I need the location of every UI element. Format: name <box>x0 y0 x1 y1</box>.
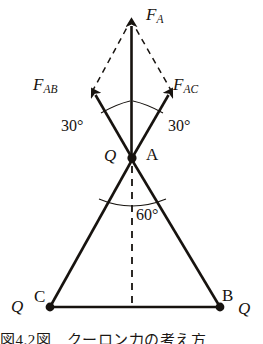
triangle-side-AB <box>132 160 220 307</box>
triangle-side-AC <box>50 160 132 307</box>
angle-arc-30-left <box>101 101 130 113</box>
label-force-FAB-symbol: F <box>33 75 43 94</box>
charge-point-A <box>127 153 136 162</box>
label-force-FAC-symbol: F <box>173 75 183 94</box>
label-angle-60-apex: 60° <box>136 207 158 223</box>
label-charge-Q-at-C: Q <box>11 298 23 315</box>
label-charge-Q-at-B: Q <box>238 300 250 317</box>
label-force-FA: FA <box>146 6 164 26</box>
parallelogram-construction-line-left <box>92 22 130 92</box>
charge-point-C <box>46 303 55 312</box>
label-vertex-C: C <box>34 288 45 305</box>
figure-caption: 図4.2図 クーロン力の考え方 <box>0 333 263 344</box>
label-force-FAB-subscript: AB <box>43 83 57 95</box>
coulomb-force-figure: FA FAB FAC 30° 30° 60° A Q C Q B Q 図4.2図… <box>0 0 263 344</box>
label-vertex-B: B <box>222 287 233 304</box>
label-force-FA-subscript: A <box>156 13 163 25</box>
label-vertex-A: A <box>146 146 158 163</box>
label-charge-Q-at-A: Q <box>104 147 116 164</box>
label-angle-30-left: 30° <box>61 118 83 134</box>
label-force-FAC: FAC <box>173 76 199 96</box>
label-angle-30-right: 30° <box>168 118 190 134</box>
label-force-FAB: FAB <box>33 76 58 96</box>
label-force-FA-symbol: F <box>146 5 156 24</box>
label-force-FAC-subscript: AC <box>183 83 198 95</box>
parallelogram-construction-line-right <box>132 22 172 92</box>
